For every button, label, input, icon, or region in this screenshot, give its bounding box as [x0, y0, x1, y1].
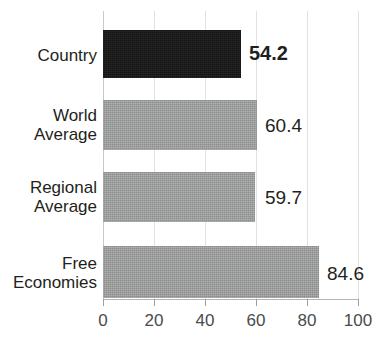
category-label-regional-average-line-0: Regional [0, 178, 97, 197]
xtick-label-80: 80 [298, 311, 317, 330]
category-label-country-line-0: Country [0, 46, 97, 65]
value-label-regional-average: 59.7 [265, 188, 302, 207]
xtick-label-100: 100 [344, 311, 372, 330]
xtick-label-40: 40 [196, 311, 215, 330]
gridline-100 [358, 11, 359, 299]
x-axis-baseline [103, 299, 359, 300]
bar-country[interactable] [103, 30, 241, 78]
bar-regional-average[interactable] [103, 172, 255, 222]
value-label-free-economies: 84.6 [327, 264, 364, 283]
category-label-country: Country [0, 46, 97, 65]
category-label-free-economies-line-1: Economies [0, 273, 97, 292]
category-label-free-economies: Free Economies [0, 254, 97, 292]
xtick-label-60: 60 [247, 311, 266, 330]
bar-free-economies[interactable] [103, 246, 319, 298]
xtick-label-20: 20 [145, 311, 164, 330]
category-label-world-average-line-0: World [0, 106, 97, 125]
tick-0 [103, 299, 104, 306]
tick-100 [358, 299, 359, 306]
plot-area: Country 54.2 World Average 60.4 Regional… [0, 0, 391, 356]
bar-chart: Country 54.2 World Average 60.4 Regional… [0, 0, 391, 356]
tick-40 [205, 299, 206, 306]
category-label-world-average: World Average [0, 106, 97, 144]
xtick-label-0: 0 [98, 311, 107, 330]
category-label-regional-average-line-1: Average [0, 197, 97, 216]
tick-60 [256, 299, 257, 306]
value-label-world-average: 60.4 [265, 116, 302, 135]
bar-world-average[interactable] [103, 100, 257, 150]
category-label-regional-average: Regional Average [0, 178, 97, 216]
category-label-free-economies-line-0: Free [0, 254, 97, 273]
value-label-country: 54.2 [249, 44, 288, 63]
tick-20 [154, 299, 155, 306]
tick-80 [307, 299, 308, 306]
category-label-world-average-line-1: Average [0, 125, 97, 144]
